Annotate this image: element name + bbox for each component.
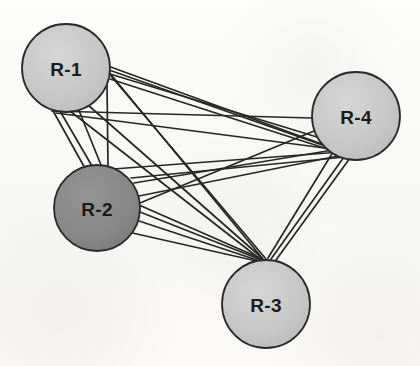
node-r2-label: R-2 [81, 199, 113, 220]
edge-r3-r4 [276, 158, 350, 260]
edge-r1-r2 [107, 83, 108, 167]
edge-r3-r4 [271, 157, 344, 259]
node-r1-label: R-1 [50, 59, 82, 80]
diagram-canvas: R-1 R-2 R-3 R-4 [0, 0, 420, 366]
edge-r2-r3 [128, 232, 261, 262]
edge-r1-r2 [60, 111, 92, 166]
node-r3-label: R-3 [250, 295, 282, 316]
node-r2[interactable]: R-2 [54, 165, 140, 251]
node-r3[interactable]: R-3 [222, 260, 310, 348]
node-r4[interactable]: R-4 [312, 72, 400, 160]
edge-r1-r4 [109, 70, 345, 153]
edge-r1-r4 [110, 74, 317, 137]
edge-r1-r2 [52, 109, 86, 170]
node-r4-label: R-4 [340, 107, 372, 128]
nodes-layer: R-1 R-2 R-3 R-4 [22, 24, 400, 348]
network-graph: R-1 R-2 R-3 R-4 [0, 0, 420, 366]
node-r1[interactable]: R-1 [22, 24, 110, 112]
